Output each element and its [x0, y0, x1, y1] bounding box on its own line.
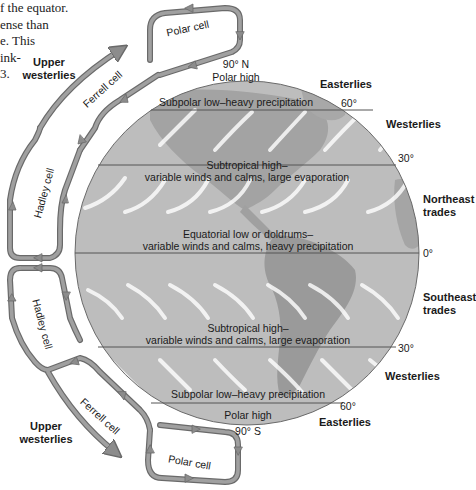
upper-westerlies-north-label: Upper westerlies	[22, 56, 75, 81]
lat-60s-label: 60°	[340, 400, 356, 412]
label-line: trades	[423, 304, 476, 317]
upper-westerlies-south-label: Upper westerlies	[19, 420, 72, 445]
label-line: Subtropical high–	[145, 159, 349, 171]
westerlies-north-label: Westerlies	[386, 118, 441, 131]
label-line: westerlies	[22, 69, 75, 82]
label-line: Upper	[19, 420, 72, 433]
subpolar-low-south-label: Subpolar low–heavy precipitation	[171, 388, 325, 400]
atmospheric-circulation-diagram: f the equator. ense than e. This ink- 3.…	[0, 0, 476, 490]
subpolar-low-north-label: Subpolar low–heavy precipitation	[159, 96, 313, 108]
text-line: e. This	[0, 33, 68, 50]
polar-high-south-label: Polar high	[224, 409, 271, 421]
label-line: variable winds and calms, heavy precipit…	[143, 240, 354, 252]
label-line: Subtropical high–	[146, 322, 350, 334]
label-line: Upper	[22, 56, 75, 69]
easterlies-north-label: Easterlies	[320, 78, 372, 91]
westerlies-south-label: Westerlies	[385, 370, 440, 383]
subtropical-high-north-label: Subtropical high– variable winds and cal…	[145, 159, 349, 183]
label-line: variable winds and calms, large evaporat…	[145, 171, 349, 183]
easterlies-south-label: Easterlies	[319, 416, 371, 429]
north-pole-label: 90° N	[223, 58, 249, 70]
text-line: f the equator.	[0, 0, 68, 17]
label-line: Northeast	[423, 193, 474, 206]
subtropical-high-south-label: Subtropical high– variable winds and cal…	[146, 322, 350, 346]
northeast-trades-label: Northeast trades	[423, 193, 474, 218]
lat-30n-label: 30°	[398, 152, 414, 164]
lat-60n-label: 60°	[341, 97, 357, 109]
southeast-trades-label: Southeast trades	[423, 291, 476, 316]
label-line: Equatorial low or doldrums–	[143, 228, 354, 240]
label-line: variable winds and calms, large evaporat…	[146, 334, 350, 346]
label-line: westerlies	[19, 433, 72, 446]
south-pole-label: 90° S	[235, 425, 261, 437]
label-line: trades	[423, 206, 474, 219]
lat-equator-label: 0°	[423, 247, 433, 259]
text-line: ense than	[0, 17, 68, 34]
equatorial-low-label: Equatorial low or doldrums– variable win…	[143, 228, 354, 252]
polar-high-north-label: Polar high	[212, 71, 259, 83]
globe	[75, 81, 425, 440]
label-line: Southeast	[423, 291, 476, 304]
lat-30s-label: 30°	[398, 342, 414, 354]
